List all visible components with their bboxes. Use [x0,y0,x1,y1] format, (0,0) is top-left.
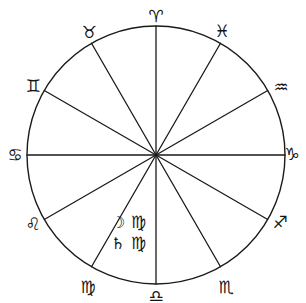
zodiac-sign-label-taurus: ♉ [81,24,96,41]
zodiac-sign-label-sagittarius: ♐ [272,214,287,231]
list-item: ♄ ♍ [111,233,171,254]
zodiac-wheel-chart: ♈♉♊♋♌♍♎♏♐♑♒♓ ☽ ♍ ♄ ♍ [0,0,306,303]
zodiac-sign-label-gemini: ♊ [25,78,40,95]
zodiac-sign-label-leo: ♌ [25,216,40,233]
zodiac-sign-label-scorpio: ♏ [218,279,233,296]
zodiac-sign-label-pisces: ♓ [214,23,229,40]
zodiac-sign-label-aries: ♈ [148,8,163,25]
virgo-icon: ♍ [131,214,146,231]
saturn-icon: ♄ [111,236,131,252]
planet-placement-list: ☽ ♍ ♄ ♍ [111,212,171,254]
zodiac-sign-label-aquarius: ♒ [273,79,288,96]
zodiac-sign-label-capricorn: ♑ [284,146,299,163]
moon-icon: ☽ [111,215,131,231]
list-item: ☽ ♍ [111,212,171,233]
zodiac-sign-label-libra: ♎ [148,288,163,303]
zodiac-wheel-svg [0,0,306,303]
zodiac-sign-label-cancer: ♋ [7,147,22,164]
virgo-icon: ♍ [131,235,146,252]
zodiac-sign-label-virgo: ♍ [80,279,95,296]
